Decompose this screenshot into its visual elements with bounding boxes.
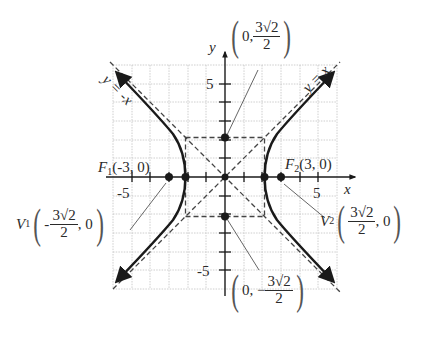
numerator: 3√2	[265, 274, 292, 291]
fraction: 3√22	[253, 20, 280, 53]
co-vertex-bottom-point	[221, 213, 229, 221]
fraction: 3√22	[265, 274, 292, 307]
vertex-v2-point	[261, 173, 269, 181]
fraction: 3√22	[348, 205, 375, 238]
vertex-sub: 1	[25, 219, 30, 229]
co-vertex-top-label: ( 0, 3√22 )	[228, 15, 294, 57]
vertex-v1-label: V1 ( - 3√22 , 0 )	[16, 203, 107, 245]
vertex-sub: 2	[329, 216, 334, 226]
y-tick-label-neg5: -5	[197, 264, 210, 279]
vertex-name: V	[320, 214, 329, 229]
y-tick-label-5: 5	[206, 77, 214, 92]
co-vertex-top-point	[221, 134, 229, 142]
right-paren: )	[96, 203, 104, 245]
fraction: 3√22	[50, 208, 77, 241]
focus-f1-label: F1(-3, 0)	[98, 160, 150, 177]
rest: , 0	[375, 214, 390, 229]
x-tick-label-neg5: -5	[117, 186, 130, 201]
co-vertex-bottom-label: ( 0, − 3√22 )	[228, 269, 307, 311]
vertex-v1-point	[182, 173, 190, 181]
focus-coords: (3, 0)	[299, 156, 332, 172]
vertex-name: V	[16, 217, 25, 232]
focus-coords: (-3, 0)	[112, 159, 150, 175]
left-paren: (	[231, 15, 239, 57]
x-axis-label: x	[344, 182, 351, 197]
sign: -	[44, 217, 49, 232]
focus-name: F	[285, 156, 294, 172]
left-paren: (	[33, 203, 41, 245]
left-paren: (	[337, 200, 345, 242]
denominator: 2	[358, 222, 366, 238]
right-paren: )	[394, 200, 402, 242]
y-axis-label: y	[209, 40, 216, 55]
right-paren: )	[296, 269, 304, 311]
focus-f1-point	[165, 173, 173, 181]
left-paren: (	[231, 269, 239, 311]
focus-f2-point	[277, 173, 285, 181]
focus-name: F	[98, 159, 107, 175]
numerator: 3√2	[348, 205, 375, 222]
lead: 0, −	[242, 283, 265, 298]
denominator: 2	[263, 37, 271, 53]
numerator: 3√2	[50, 208, 77, 225]
vertex-v2-label: V2 ( 3√22 , 0 )	[320, 200, 404, 242]
numerator: 3√2	[253, 20, 280, 37]
x-tick-label-5: 5	[313, 186, 321, 201]
denominator: 2	[275, 291, 283, 307]
right-paren: )	[284, 15, 292, 57]
focus-f2-label: F2(3, 0)	[285, 157, 332, 174]
denominator: 2	[60, 225, 68, 241]
origin-point	[222, 174, 229, 181]
rest: , 0	[78, 217, 93, 232]
lead: 0,	[242, 29, 253, 44]
